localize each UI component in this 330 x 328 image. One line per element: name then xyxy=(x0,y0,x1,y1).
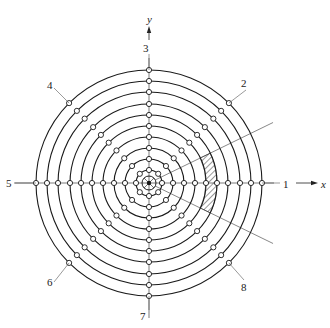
x-axis-label: x xyxy=(321,179,326,190)
hole-marker xyxy=(146,101,151,106)
hole-marker xyxy=(146,271,151,276)
hole-marker xyxy=(74,108,79,113)
direction-label-1: 1 xyxy=(283,179,289,190)
hole-marker xyxy=(248,180,253,185)
hole-marker xyxy=(146,78,151,83)
y-axis-label: y xyxy=(147,14,152,25)
hole-marker xyxy=(146,226,151,231)
hole-marker xyxy=(203,180,208,185)
center-hub xyxy=(142,176,156,190)
hole-marker xyxy=(202,236,207,241)
hole-marker xyxy=(82,245,87,250)
hole-marker xyxy=(78,180,83,185)
hole-marker xyxy=(181,180,186,185)
hole-marker xyxy=(187,221,192,226)
hole-marker xyxy=(100,180,105,185)
hole-marker xyxy=(219,253,224,258)
direction-label-3: 3 xyxy=(143,43,149,54)
hole-marker xyxy=(146,204,151,209)
direction-label-2: 2 xyxy=(241,78,247,89)
hole-marker xyxy=(106,221,111,226)
hole-marker xyxy=(98,228,103,233)
hole-marker xyxy=(159,180,164,185)
hole-marker xyxy=(122,156,127,161)
hole-marker xyxy=(225,180,230,185)
leader-line xyxy=(229,90,246,103)
hole-marker xyxy=(192,180,197,185)
hole-marker xyxy=(187,140,192,145)
hole-marker xyxy=(82,116,87,121)
hole-marker xyxy=(91,125,96,130)
hole-marker xyxy=(122,205,127,210)
hole-marker xyxy=(179,148,184,153)
hole-marker xyxy=(146,282,151,287)
hole-marker xyxy=(114,213,119,218)
hole-marker xyxy=(211,116,216,121)
hole-marker xyxy=(237,180,242,185)
hole-marker xyxy=(146,89,151,94)
hole-marker xyxy=(171,205,176,210)
hole-marker xyxy=(44,180,49,185)
hole-marker xyxy=(146,145,151,150)
hole-marker xyxy=(133,180,138,185)
direction-label-4: 4 xyxy=(47,80,53,91)
hole-marker xyxy=(179,213,184,218)
hole-marker xyxy=(156,190,161,195)
hole-marker xyxy=(156,171,161,176)
hole-marker xyxy=(137,190,142,195)
y-arrow-head-icon xyxy=(147,26,151,33)
hole-marker xyxy=(106,140,111,145)
axes xyxy=(14,26,318,318)
hole-marker xyxy=(146,112,151,117)
hole-marker xyxy=(146,167,151,172)
hole-marker xyxy=(67,180,72,185)
hole-marker xyxy=(163,163,168,168)
hole-marker xyxy=(111,180,116,185)
hole-marker xyxy=(91,236,96,241)
hole-marker xyxy=(55,180,60,185)
hole-marker xyxy=(129,163,134,168)
hole-marker xyxy=(146,237,151,242)
hole-marker xyxy=(129,197,134,202)
hole-marker xyxy=(146,248,151,253)
hole-marker xyxy=(146,123,151,128)
leader-line xyxy=(54,263,69,282)
direction-label-5: 5 xyxy=(6,178,12,189)
hole-marker xyxy=(74,253,79,258)
hole-marker xyxy=(98,132,103,137)
hole-marker xyxy=(202,125,207,130)
hub-center-dot xyxy=(147,181,151,185)
hole-marker xyxy=(194,228,199,233)
hole-marker xyxy=(194,132,199,137)
hole-marker xyxy=(214,180,219,185)
hole-marker xyxy=(146,193,151,198)
hole-marker xyxy=(89,180,94,185)
hole-marker xyxy=(171,156,176,161)
hole-marker xyxy=(163,197,168,202)
hole-marker xyxy=(146,156,151,161)
hole-marker xyxy=(170,180,175,185)
hole-marker xyxy=(219,108,224,113)
hole-marker xyxy=(146,134,151,139)
leader-line xyxy=(54,88,69,103)
hole-marker xyxy=(226,100,231,105)
hole-marker xyxy=(114,148,119,153)
hole-marker xyxy=(122,180,127,185)
x-arrow-head-icon xyxy=(311,181,318,185)
direction-label-6: 6 xyxy=(47,277,53,288)
direction-label-8: 8 xyxy=(241,282,247,293)
hole-marker xyxy=(146,259,151,264)
hole-marker xyxy=(137,171,142,176)
leader-line xyxy=(229,263,244,280)
hole-marker xyxy=(211,245,216,250)
hole-marker xyxy=(146,215,151,220)
direction-label-7: 7 xyxy=(140,311,146,322)
